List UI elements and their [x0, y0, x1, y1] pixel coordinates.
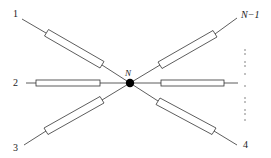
terminal-label-1: 1	[13, 9, 18, 19]
terminal-label-2: 2	[13, 78, 18, 88]
branch-4	[130, 83, 237, 145]
branch-3	[24, 83, 130, 145]
branch-n-minus-1	[130, 18, 237, 83]
vertical-ellipsis	[244, 49, 245, 120]
terminal-label-3: 3	[13, 143, 18, 153]
terminal-label-n-minus-1: N−1	[241, 10, 259, 20]
center-node-label: N	[125, 68, 131, 78]
wire-4-outer	[214, 131, 237, 145]
branch-1	[22, 19, 130, 83]
wire-1-outer	[22, 19, 46, 33]
resistor-n-minus-1	[158, 31, 217, 69]
resistor-right	[161, 80, 224, 86]
center-node	[126, 79, 134, 87]
wire-3-inner	[102, 83, 130, 100]
wire-3-outer	[24, 131, 46, 145]
branch-2	[26, 80, 130, 86]
star-network-diagram	[0, 0, 271, 158]
resistor-1	[45, 30, 105, 69]
wire-n-minus-1-outer	[215, 18, 237, 34]
wire-n-minus-1-inner	[130, 65, 160, 83]
resistor-4	[156, 98, 216, 135]
wire-4-inner	[130, 83, 158, 101]
resistor-3	[44, 97, 104, 135]
branch-right	[130, 80, 238, 86]
terminal-label-4: 4	[243, 140, 248, 150]
resistor-2	[36, 80, 100, 86]
